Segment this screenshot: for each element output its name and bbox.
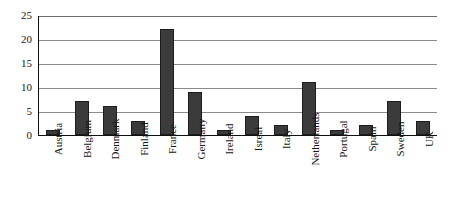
bar-slot	[266, 16, 294, 135]
x-tick-slot: Austria	[38, 139, 67, 213]
x-tick-slot: Ireland	[209, 139, 238, 213]
x-tick-label: Isreal	[252, 127, 264, 151]
x-tick-label: Sweden	[394, 122, 406, 157]
x-tick-slot: Belgium	[67, 139, 96, 213]
y-axis: 0510152025	[0, 0, 36, 213]
x-tick-slot: Isreal	[238, 139, 267, 213]
x-tick-slot: Spain	[352, 139, 381, 213]
x-tick-label: Belgium	[81, 120, 93, 158]
bar-slot	[352, 16, 380, 135]
plot-area	[38, 16, 437, 136]
x-tick-slot: Germany	[181, 139, 210, 213]
x-tick-label: Netherlands	[309, 112, 321, 165]
bars-container	[39, 16, 437, 135]
bar-slot	[39, 16, 67, 135]
y-tick-label: 10	[21, 82, 32, 93]
y-tick-label: 15	[21, 58, 32, 69]
x-tick-slot: Denmark	[95, 139, 124, 213]
x-tick-slot: UK	[409, 139, 438, 213]
bar-slot	[238, 16, 266, 135]
bar-slot	[323, 16, 351, 135]
bar-slot	[67, 16, 95, 135]
x-tick-slot: Sweden	[380, 139, 409, 213]
bar-chart: 0510152025 AustriaBelgiumDenmarkFinlandF…	[0, 0, 452, 213]
x-tick-label: Italy	[280, 129, 292, 149]
x-tick-label: Spain	[366, 126, 378, 151]
x-tick-slot: Italy	[266, 139, 295, 213]
x-tick-label: Portugal	[337, 120, 349, 157]
x-tick-slot: Netherlands	[295, 139, 324, 213]
bar-slot	[153, 16, 181, 135]
bar-slot	[96, 16, 124, 135]
x-tick-label: Ireland	[223, 123, 235, 154]
x-tick-slot: Finland	[124, 139, 153, 213]
y-tick-label: 20	[21, 34, 32, 45]
x-tick-label: Denmark	[109, 119, 121, 160]
y-tick-label: 5	[27, 106, 33, 117]
x-tick-slot: France	[152, 139, 181, 213]
x-tick-label: UK	[423, 131, 435, 147]
bar-slot	[210, 16, 238, 135]
bar-slot	[181, 16, 209, 135]
x-tick-label: Austria	[52, 123, 64, 155]
y-tick-label: 25	[21, 10, 32, 21]
x-tick-label: France	[166, 124, 178, 154]
bar-slot	[380, 16, 408, 135]
x-tick-label: Finland	[138, 122, 150, 156]
bar	[160, 29, 174, 135]
x-axis: AustriaBelgiumDenmarkFinlandFranceGerman…	[38, 139, 437, 213]
bar-slot	[124, 16, 152, 135]
y-tick-label: 0	[27, 130, 33, 141]
x-tick-slot: Portugal	[323, 139, 352, 213]
x-tick-label: Germany	[195, 119, 207, 160]
bar-slot	[408, 16, 436, 135]
